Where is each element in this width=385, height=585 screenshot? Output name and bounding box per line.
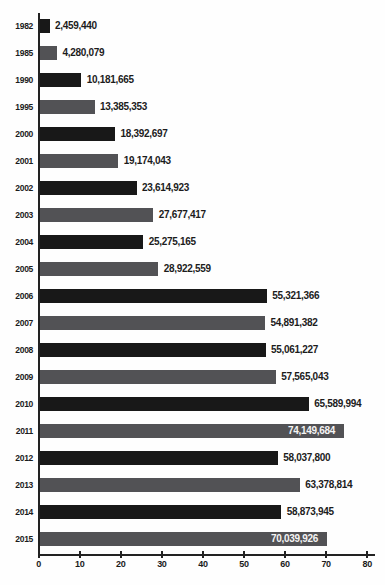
year-label: 2001 — [0, 154, 33, 168]
value-label: 55,321,366 — [272, 289, 319, 303]
bar — [40, 235, 144, 249]
x-axis-tick — [202, 551, 204, 558]
bar-row: 201458,873,945 — [0, 505, 385, 519]
x-axis-tick-label: 0 — [27, 559, 51, 569]
bar — [40, 181, 137, 195]
bar-row: 201065,589,994 — [0, 397, 385, 411]
year-label: 1982 — [0, 19, 33, 33]
bar-row: 200018,392,697 — [0, 127, 385, 141]
year-label: 2006 — [0, 289, 33, 303]
x-axis-tick-label: 30 — [150, 559, 174, 569]
value-label: 27,677,417 — [159, 208, 206, 222]
x-axis-tick-label: 50 — [232, 559, 256, 569]
value-label: 63,378,814 — [305, 478, 352, 492]
year-label: 2005 — [0, 262, 33, 276]
x-axis-tick — [38, 551, 40, 558]
year-label: 2002 — [0, 181, 33, 195]
x-axis-tick — [161, 551, 163, 558]
year-label: 1990 — [0, 73, 33, 87]
value-label: 74,149,684 — [40, 424, 335, 438]
x-axis-tick — [366, 551, 368, 558]
bar-row: 200223,614,923 — [0, 181, 385, 195]
bar — [40, 289, 267, 303]
x-axis-tick-label: 10 — [68, 559, 92, 569]
x-axis-tick — [79, 551, 81, 558]
x-axis-tick — [284, 551, 286, 558]
year-label: 2009 — [0, 370, 33, 384]
y-axis-line — [38, 13, 40, 555]
year-label: 2007 — [0, 316, 33, 330]
bar — [40, 505, 282, 519]
bar — [40, 370, 276, 384]
bar — [40, 208, 154, 222]
bar-row: 201570,039,926 — [0, 532, 385, 546]
year-label: 2010 — [0, 397, 33, 411]
value-label: 57,565,043 — [281, 370, 328, 384]
value-label: 4,280,079 — [63, 46, 105, 60]
bar-row: 200327,677,417 — [0, 208, 385, 222]
x-axis-tick-label: 60 — [273, 559, 297, 569]
bar — [40, 397, 309, 411]
bar — [40, 127, 116, 141]
year-label: 2014 — [0, 505, 33, 519]
bar-row: 200655,321,366 — [0, 289, 385, 303]
value-label: 2,459,440 — [55, 19, 97, 33]
year-label: 2008 — [0, 343, 33, 357]
year-label: 2013 — [0, 478, 33, 492]
value-label: 10,181,665 — [87, 73, 134, 87]
value-label: 13,385,353 — [100, 100, 147, 114]
value-label: 65,589,994 — [314, 397, 361, 411]
bar — [40, 73, 82, 87]
bar-row: 200754,891,382 — [0, 316, 385, 330]
bar-row: 19854,280,079 — [0, 46, 385, 60]
value-label: 58,037,800 — [283, 451, 330, 465]
bar-row: 200528,922,559 — [0, 262, 385, 276]
year-label: 2003 — [0, 208, 33, 222]
x-axis-tick-label: 20 — [109, 559, 133, 569]
x-axis-tick — [243, 551, 245, 558]
value-label: 23,614,923 — [142, 181, 189, 195]
bar-row: 200855,061,227 — [0, 343, 385, 357]
bar — [40, 46, 58, 60]
bar-row: 200425,275,165 — [0, 235, 385, 249]
value-label: 54,891,382 — [270, 316, 317, 330]
bar-row: 200119,174,043 — [0, 154, 385, 168]
bar — [40, 19, 50, 33]
bar-row: 201174,149,684 — [0, 424, 385, 438]
x-axis-tick-label: 70 — [314, 559, 338, 569]
x-axis-tick — [325, 551, 327, 558]
year-label: 1985 — [0, 46, 33, 60]
year-label: 2012 — [0, 451, 33, 465]
bar-row: 19822,459,440 — [0, 19, 385, 33]
bar — [40, 343, 266, 357]
value-label: 18,392,697 — [121, 127, 168, 141]
bar — [40, 154, 119, 168]
bar-row: 201258,037,800 — [0, 451, 385, 465]
year-label: 2000 — [0, 127, 33, 141]
value-label: 70,039,926 — [40, 532, 319, 546]
bar-row: 199010,181,665 — [0, 73, 385, 87]
bar — [40, 100, 95, 114]
value-label: 58,873,945 — [287, 505, 334, 519]
year-label: 1995 — [0, 100, 33, 114]
x-axis-tick-label: 40 — [191, 559, 215, 569]
bar — [40, 316, 265, 330]
year-label: 2015 — [0, 532, 33, 546]
year-label: 2004 — [0, 235, 33, 249]
bar — [40, 262, 159, 276]
year-label: 2011 — [0, 424, 33, 438]
value-label: 55,061,227 — [271, 343, 318, 357]
bar — [40, 478, 300, 492]
bar-row: 200957,565,043 — [0, 370, 385, 384]
x-axis-tick-label: 80 — [355, 559, 379, 569]
bar-row: 199513,385,353 — [0, 100, 385, 114]
value-label: 28,922,559 — [164, 262, 211, 276]
bar-row: 201363,378,814 — [0, 478, 385, 492]
value-label: 19,174,043 — [124, 154, 171, 168]
x-axis-tick — [120, 551, 122, 558]
bar — [40, 451, 278, 465]
value-label: 25,275,165 — [149, 235, 196, 249]
bar-chart: 19822,459,44019854,280,079199010,181,665… — [0, 0, 385, 585]
